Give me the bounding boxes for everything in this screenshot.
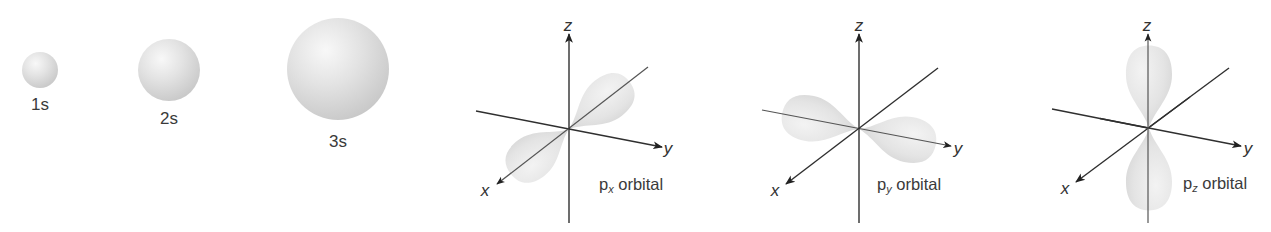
sphere-1s [22, 52, 58, 88]
orbital-px: z y x px orbital [476, 16, 674, 223]
sphere-2s [138, 39, 200, 101]
label-3s: 3s [329, 132, 347, 151]
orbital-1s: 1s [22, 52, 58, 114]
sphere-3s [287, 18, 389, 120]
py-orbital-label: py orbital [877, 175, 941, 195]
py-lobe-right [854, 107, 940, 168]
px-orbital-label: px orbital [599, 175, 663, 195]
orbital-diagram: 1s 2s 3s z y x px orbital [0, 0, 1271, 232]
py-x-label: x [770, 181, 780, 200]
py-y-label: y [953, 139, 964, 158]
pz-z-label: z [1142, 16, 1152, 35]
orbital-py: z y x py orbital [762, 16, 964, 223]
px-x-axis [497, 67, 648, 184]
pz-y-label: y [1243, 139, 1254, 158]
orbital-pz: z y x pz orbital [1052, 16, 1254, 223]
px-z-label: z [563, 16, 573, 35]
px-x-label: x [480, 181, 490, 200]
orbital-2s: 2s [138, 39, 200, 128]
orbital-3s: 3s [287, 18, 389, 151]
label-2s: 2s [160, 109, 178, 128]
px-y-axis [476, 111, 569, 129]
pz-y-axis [1100, 119, 1241, 147]
px-y-label: y [663, 139, 674, 158]
px-y-axis-front [569, 129, 662, 147]
py-z-label: z [854, 16, 864, 35]
s-orbitals: 1s 2s 3s [22, 18, 389, 151]
pz-orbital-label: pz orbital [1183, 174, 1247, 194]
label-1s: 1s [31, 95, 49, 114]
pz-x-label: x [1060, 179, 1070, 198]
